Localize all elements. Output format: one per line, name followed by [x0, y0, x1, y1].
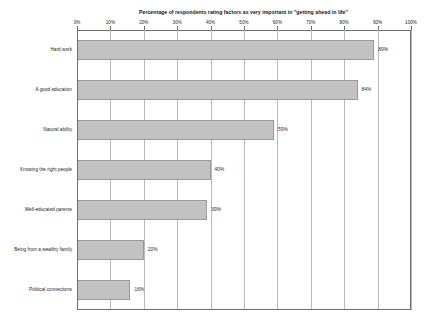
plot-frame — [77, 30, 411, 310]
x-tick-label: 50% — [239, 20, 248, 25]
category-label: Knowing the right people — [20, 167, 72, 172]
category-label: Well-educated parents — [25, 207, 72, 212]
x-tick-label: 70% — [306, 20, 315, 25]
chart-title: Percentage of respondents rating factors… — [139, 9, 439, 16]
y-axis-category-labels: Hard workA good educationNatural ability… — [0, 30, 72, 310]
x-tick-label: 90% — [373, 20, 382, 25]
x-tick-label: 40% — [206, 20, 215, 25]
x-tick-label: 80% — [340, 20, 349, 25]
gridline — [411, 30, 412, 310]
bar-chart: Percentage of respondents rating factors… — [0, 0, 444, 324]
category-label: Being from a wealthy family — [14, 247, 72, 252]
category-label: Political connections — [29, 287, 72, 292]
x-tick-label: 30% — [173, 20, 182, 25]
x-tick-label: 20% — [139, 20, 148, 25]
x-tick-label: 0% — [74, 20, 81, 25]
category-label: A good education — [35, 87, 72, 92]
category-label: Natural ability — [43, 127, 72, 132]
x-tick-label: 60% — [273, 20, 282, 25]
plot-area: 89%84%59%40%39%20%16% — [77, 30, 411, 310]
x-tick-label: 100% — [405, 20, 417, 25]
category-label: Hard work — [50, 47, 72, 52]
x-tick-label: 10% — [106, 20, 115, 25]
